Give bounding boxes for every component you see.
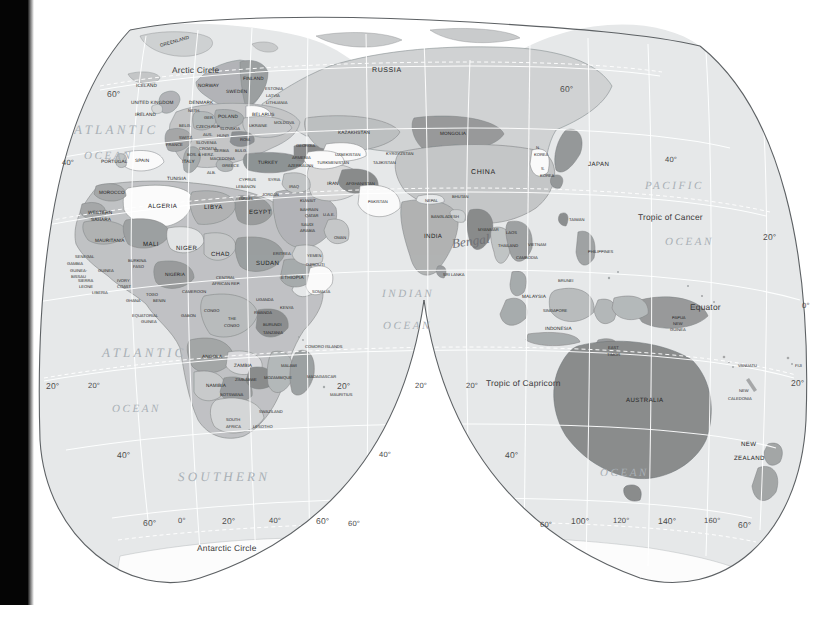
country-label-faso: FASO (133, 264, 144, 269)
ocean-label-atlantic-2: ATLANTIC (102, 345, 186, 361)
graticule-label-11: 60° (348, 519, 360, 528)
country-label-kyrgyzstan: KYRGYZSTAN (386, 151, 413, 156)
country-label-guinea: GUINEA (141, 319, 157, 324)
country-label-laos: LAOS (506, 230, 517, 235)
ocean-label-atlantic-0: ATLANTIC (74, 122, 158, 138)
country-label-iran: IRAN (327, 181, 339, 186)
country-label-senegal: SENEGAL (75, 254, 94, 259)
country-label-vietnam: VIETNAM (528, 242, 546, 247)
country-label-zambia: ZAMBIA (234, 363, 252, 368)
country-label-indonesia: INDONESIA (545, 326, 572, 331)
graticule-label-14: 60° (560, 84, 573, 94)
country-label-swaziland: SWAZILAND (259, 409, 283, 414)
country-label-greece: GREECE (222, 163, 239, 168)
graticule-label-12: 20° (337, 381, 350, 391)
line-label-tropic-of-capricorn: Tropic of Capricorn (486, 378, 561, 388)
ocean-label-ocean-8: OCEAN (665, 236, 714, 248)
graticule-label-10: 60° (316, 516, 329, 526)
graticule-label-6: 60° (143, 518, 156, 528)
country-label-russia: RUSSIA (372, 67, 402, 74)
country-label-czech-rep: CZECH REP. (196, 124, 220, 129)
scan-edge-artifact (0, 0, 30, 605)
country-label-congo: CONGO (204, 308, 219, 313)
country-label-switz: SWITZ. (179, 135, 193, 140)
iraq (282, 173, 310, 193)
country-label-cambodia: CAMBODIA (516, 255, 538, 260)
country-label-uzbekistan: UZBEKISTAN (335, 152, 360, 157)
country-label-armenia: ARMENIA (292, 155, 311, 160)
country-label-ireland: IRELAND (135, 112, 156, 117)
country-label-australia: AUSTRALIA (626, 397, 663, 404)
country-label-mozambique: MOZAMBIQUE (264, 375, 292, 380)
country-label-lesotho: LESOTHO (253, 424, 273, 429)
country-label-japan: JAPAN (588, 161, 609, 168)
ocean-label-ocean-3: OCEAN (112, 403, 161, 415)
country-label-western: WESTERN (88, 210, 112, 215)
country-label-belg: BELG. (179, 123, 191, 128)
country-label-malaysia: MALAYSIA (522, 294, 546, 299)
scan-edge-gradient (28, 0, 34, 605)
country-label-china: CHINA (471, 169, 496, 176)
ocean-label-ocean-6: OCEAN (383, 320, 432, 332)
country-label-lebanon: LEBANON (236, 184, 256, 189)
country-label-sierra: SIERRA (78, 278, 93, 283)
country-label-niger: NIGER (176, 245, 197, 252)
country-label-somalia: SOMALIA (312, 289, 330, 294)
line-label-tropic-of-cancer: Tropic of Cancer (638, 212, 703, 222)
graticule-label-23: 120° (613, 516, 630, 525)
country-label-the: THE (228, 316, 236, 321)
country-label-new: NEW (673, 321, 683, 326)
ocean-label-pacific-7: PACIFIC (645, 180, 704, 192)
country-label-afghanistan: AFGHANISTAN (346, 181, 375, 186)
graticule-label-4: 40° (117, 450, 130, 460)
country-label-spain: SPAIN (135, 158, 149, 163)
arctic-islands (316, 33, 402, 48)
country-label-poland: POLAND (218, 114, 238, 119)
country-label-moldova: MOLDOVA (274, 120, 294, 125)
country-label-madagascar: MADAGASCAR (307, 374, 336, 379)
country-label-botswana: BOTSWANA (220, 392, 243, 397)
country-label-bahrain: BAHRAIN (300, 207, 318, 212)
country-label-macedonia: MACEDONIA (210, 156, 235, 161)
country-label-arabia: ARABIA (300, 228, 315, 233)
graticule-label-17: 0° (802, 301, 810, 310)
country-label-sahara: SAHARA (91, 217, 111, 222)
country-label-equatorial: EQUATORIAL (132, 313, 158, 318)
country-label-tajikistan: TAJIKISTAN (373, 160, 396, 165)
graticule-label-24: 140° (658, 516, 676, 526)
malaysia-peninsula (510, 271, 526, 296)
graticule-label-2: 20° (46, 381, 59, 391)
country-label-zimbabwe: ZIMBABWE (235, 377, 257, 382)
country-label-malawi: MALAWI (281, 363, 297, 368)
country-label-ivory: IVORY (117, 278, 130, 283)
country-label-aus: AUS. (203, 132, 213, 137)
country-label-mongolia: MONGOLIA (440, 131, 466, 136)
line-label-arctic-circle: Arctic Circle (172, 65, 219, 75)
country-label-india: INDIA (424, 233, 442, 240)
country-label-leone: LEONE (79, 284, 93, 289)
country-label-liberia: LIBERIA (92, 290, 108, 295)
country-label-guinea: GUINEA- (70, 268, 87, 273)
country-label-bhutan: BHUTAN (452, 194, 469, 199)
new-zealand-north (764, 443, 782, 465)
graticule-label-9: 40° (269, 516, 281, 525)
country-label-thailand: THAILAND (498, 243, 518, 248)
country-label-slovenia: SLOVENIA (196, 140, 216, 145)
ocean-label-southern-4: SOUTHERN (178, 469, 270, 485)
graticule-label-26: 60° (738, 520, 751, 530)
country-label-bulg: BULG. (235, 148, 247, 153)
country-label-sudan: SUDAN (256, 260, 279, 267)
country-label-u-a-e: U.A.E. (323, 212, 335, 217)
country-label-gambia: GAMBIA (67, 261, 83, 266)
country-label-algeria: ALGERIA (148, 203, 177, 210)
graticule-label-5: 40° (379, 450, 391, 459)
country-label-caledonia: CALEDONIA (728, 396, 752, 401)
country-label-djibouti: DJIBOUTI (306, 262, 325, 267)
country-label-uganda: UGANDA (256, 297, 274, 302)
country-label-ethiopia: ETHIOPIA (281, 275, 304, 280)
country-label-neth: NETH. (188, 108, 200, 113)
line-label-antarctic-circle: Antarctic Circle (197, 543, 257, 553)
country-label-congo: CONGO (224, 323, 239, 328)
country-label-central: CENTRAL (216, 275, 235, 280)
country-label-lithuania: LITHUANIA (266, 100, 287, 105)
